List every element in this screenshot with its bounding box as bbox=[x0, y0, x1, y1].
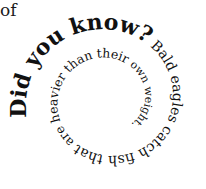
spiral-text: Did you know? Bald eagles catch fish tha… bbox=[5, 8, 186, 169]
spiral-segment-2: are heavier than their bbox=[45, 45, 132, 153]
spiral-segment-3: own weight. bbox=[125, 55, 156, 131]
spiral-text-path: Did you know? Bald eagles catch fish tha… bbox=[5, 8, 186, 169]
spiral-text-graphic: Did you know? Bald eagles catch fish tha… bbox=[0, 0, 206, 189]
